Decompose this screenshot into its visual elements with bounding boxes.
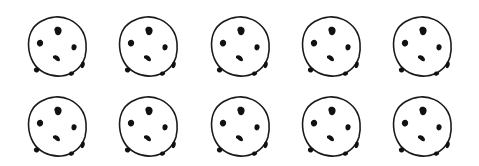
cookie-icon — [299, 93, 363, 159]
cookie-r1-c4 — [390, 93, 454, 159]
cookie-r1-c3 — [299, 93, 363, 159]
cookie-r0-c0 — [25, 13, 89, 79]
cookie-icon — [25, 93, 89, 159]
cookie-icon — [208, 13, 272, 79]
cookie-r0-c3 — [299, 13, 363, 79]
cookie-r0-c1 — [116, 13, 180, 79]
cookie-icon — [25, 13, 89, 79]
cookie-r1-c1 — [116, 93, 180, 159]
cookie-r0-c2 — [208, 13, 272, 79]
cookie-icon — [390, 13, 454, 79]
cookie-r1-c2 — [208, 93, 272, 159]
cookie-icon — [116, 93, 180, 159]
cookie-icon — [116, 13, 180, 79]
cookie-icon — [208, 93, 272, 159]
cookie-r1-c0 — [25, 93, 89, 159]
cookie-r0-c4 — [390, 13, 454, 79]
cookie-icon — [390, 93, 454, 159]
cookie-icon — [299, 13, 363, 79]
